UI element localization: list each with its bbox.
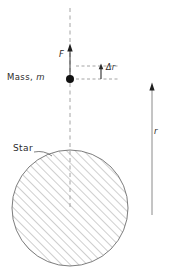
radial-distance-label: r	[154, 127, 158, 136]
mass-label-symbol: m	[36, 72, 45, 82]
mass-point-marker	[66, 75, 74, 83]
mass-label-prefix: Mass,	[7, 72, 33, 82]
delta-r-label: Δr	[106, 64, 115, 72]
diagram-canvas	[0, 0, 170, 277]
star-label: Star	[13, 144, 33, 153]
force-label: F	[59, 50, 64, 59]
star-gravity-diagram: Mass, m F Δr Star r	[0, 0, 170, 277]
radial-distance-arrow	[149, 83, 154, 216]
mass-label: Mass, m	[7, 73, 45, 82]
force-arrow	[67, 44, 72, 79]
